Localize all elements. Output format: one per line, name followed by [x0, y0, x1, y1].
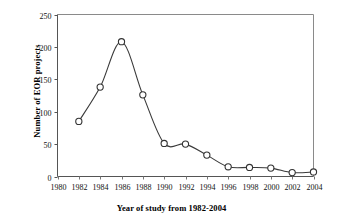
- data-markers: [76, 39, 317, 176]
- chart-figure: Number of EOR projects Year of study fro…: [0, 0, 343, 224]
- data-line-series: [79, 42, 314, 173]
- data-point-marker: [118, 39, 124, 45]
- data-point-marker: [76, 118, 82, 124]
- y-tick-label: 0: [48, 174, 52, 183]
- data-point-marker: [161, 140, 167, 146]
- data-point-marker: [310, 169, 316, 175]
- x-tick-label: 1996: [221, 183, 237, 192]
- x-tick-label: 1980: [51, 183, 67, 192]
- y-tick-label: 200: [40, 44, 52, 53]
- x-tick-label: 1986: [115, 183, 131, 192]
- y-tick-label: 250: [40, 12, 52, 21]
- x-tick-label: 2004: [307, 183, 323, 192]
- data-point-marker: [268, 165, 274, 171]
- y-tick-label: 100: [40, 109, 52, 118]
- y-tick-label: 150: [40, 76, 52, 85]
- chart-plot-area: 050100150200250 198019821984198619881990…: [0, 0, 343, 224]
- x-tick-label: 2002: [285, 183, 301, 192]
- y-axis-ticks: 050100150200250: [40, 12, 58, 183]
- data-point-marker: [97, 84, 103, 90]
- x-tick-label: 1988: [136, 183, 152, 192]
- y-tick-label: 50: [44, 141, 52, 150]
- data-point-marker: [204, 152, 210, 158]
- data-point-marker: [182, 141, 188, 147]
- x-tick-label: 1982: [72, 183, 88, 192]
- data-point-marker: [225, 164, 231, 170]
- x-axis-ticks: 1980198219841986198819901992199419961998…: [51, 177, 323, 192]
- data-point-marker: [246, 164, 252, 170]
- x-tick-label: 1992: [179, 183, 195, 192]
- x-tick-label: 1998: [243, 183, 259, 192]
- x-tick-label: 1994: [200, 183, 216, 192]
- x-tick-label: 2000: [264, 183, 280, 192]
- data-point-marker: [140, 92, 146, 98]
- data-point-marker: [289, 170, 295, 176]
- x-tick-label: 1984: [93, 183, 109, 192]
- x-tick-label: 1990: [157, 183, 173, 192]
